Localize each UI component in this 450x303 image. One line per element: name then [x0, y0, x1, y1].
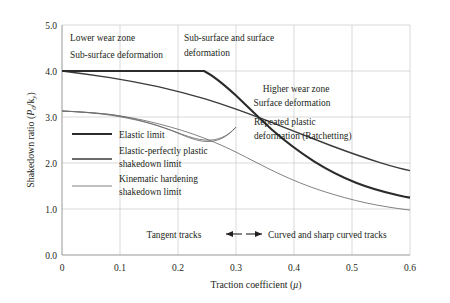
y-tick-3: 3.0	[45, 113, 57, 123]
x-tick-0.5: 0.5	[346, 263, 358, 273]
annotation-sub-surface-line1: Sub-surface and surface	[184, 33, 274, 43]
x-tick-0.3: 0.3	[230, 263, 242, 273]
legend-label-kinematic-hardening-line1: Kinematic hardening	[119, 174, 198, 184]
x-axis-title-prefix: Traction coefficient (	[211, 279, 294, 291]
annotation-lower-wear-zone-line1: Lower wear zone	[70, 33, 135, 43]
legend-label-elastic-perfectly-plastic-line1: Elastic-perfectly plastic	[119, 146, 208, 156]
shakedown-chart: 5.0 4.0 3.0 2.0 1.0 0.0 0 0.1 0.2 0.3 0.…	[0, 0, 450, 303]
annotation-repeated-plastic-line1: Repeated plastic	[254, 117, 316, 127]
x-tick-0: 0	[60, 263, 65, 273]
chart-background	[0, 0, 450, 303]
x-tick-0.2: 0.2	[172, 263, 184, 273]
y-axis-title-prefix: Shakedown ratio (	[25, 116, 37, 188]
y-tick-1: 1.0	[45, 205, 57, 215]
y-axis-title-p: P	[25, 110, 36, 117]
annotation-higher-wear-zone-line1: Higher wear zone	[263, 84, 330, 94]
annotation-higher-wear-zone-line2: Surface deformation	[254, 98, 331, 108]
x-tick-0.4: 0.4	[288, 263, 300, 273]
annotation-tangent-tracks: Tangent tracks	[147, 230, 202, 240]
y-axis-title-slash: /k	[25, 99, 36, 107]
legend-label-elastic-limit: Elastic limit	[119, 130, 165, 140]
x-axis-title-suffix: )	[298, 279, 301, 291]
y-tick-2: 2.0	[45, 159, 57, 169]
shakedown-map-figure: 5.0 4.0 3.0 2.0 1.0 0.0 0 0.1 0.2 0.3 0.…	[0, 0, 450, 303]
y-axis-title-suffix: )	[25, 92, 37, 95]
x-tick-0.1: 0.1	[114, 263, 126, 273]
y-tick-0: 0.0	[45, 251, 57, 261]
annotation-sub-surface-line2: deformation	[184, 48, 230, 58]
y-tick-5: 5.0	[45, 21, 57, 31]
svg-text:Traction coefficient (μ): Traction coefficient (μ)	[211, 279, 302, 291]
annotation-lower-wear-zone-line2: Sub-surface deformation	[70, 50, 163, 60]
x-axis-title: Traction coefficient (μ)	[211, 279, 302, 291]
legend-label-elastic-perfectly-plastic-line2: shakedown limit	[119, 159, 182, 169]
y-tick-4: 4.0	[45, 67, 57, 77]
legend-label-kinematic-hardening-line2: shakedown limit	[119, 187, 182, 197]
x-tick-0.6: 0.6	[404, 263, 416, 273]
annotation-curved-tracks: Curved and sharp curved tracks	[268, 230, 387, 240]
annotation-repeated-plastic-line2: deformation (Ratchetting)	[254, 131, 352, 142]
